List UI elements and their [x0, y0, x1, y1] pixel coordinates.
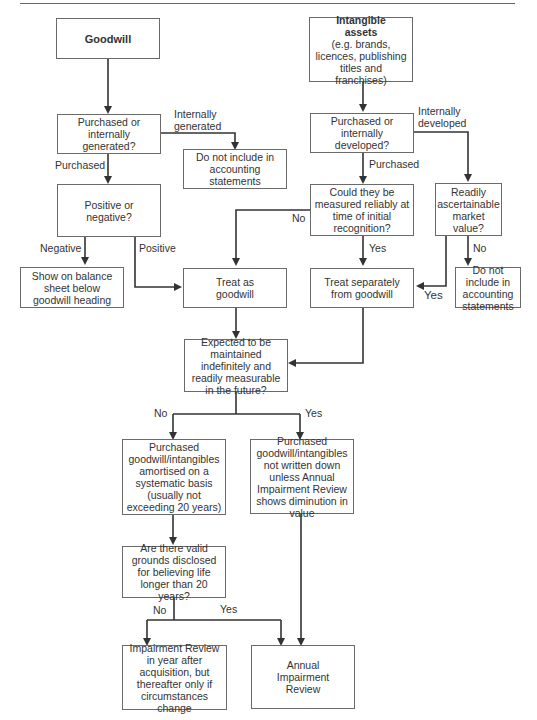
amortised-label: Purchased goodwill/intangibles amortised…: [126, 441, 222, 513]
expected-maintained-box: Expected to be maintained indefinitely a…: [184, 339, 288, 392]
edge-label-no-grounds: No: [153, 604, 166, 616]
measured-reliably-label: Could they be measured reliably at time …: [314, 186, 410, 234]
edge-label-no-market: No: [473, 242, 486, 254]
readily-ascertainable-box: Readily ascertainable market value?: [435, 183, 502, 236]
show-on-balance-sheet-label: Show on balance sheet below goodwill hea…: [24, 270, 120, 306]
intangible-assets-title: Intangible assets: [331, 14, 391, 38]
edge-label-yes-measured: Yes: [369, 242, 386, 254]
goodwill-box: Goodwill: [56, 18, 160, 59]
edge-label-no-measured: No: [292, 212, 305, 224]
treat-as-goodwill-label: Treat as goodwill: [205, 276, 265, 300]
annual-impairment-review-label: Annual Impairment Review: [263, 659, 343, 695]
amortised-box: Purchased goodwill/intangibles amortised…: [122, 439, 226, 515]
do-not-include-label-2: Do not include in accounting statements: [459, 264, 517, 312]
edge-label-internally-developed: Internally developed: [418, 105, 464, 129]
edge-label-negative: Negative: [40, 242, 81, 254]
show-on-balance-sheet-box: Show on balance sheet below goodwill hea…: [20, 267, 124, 308]
edge-label-yes-market: Yes: [424, 289, 443, 301]
valid-grounds-box: Are there valid grounds disclosed for be…: [122, 546, 226, 598]
treat-as-goodwill-box: Treat as goodwill: [183, 268, 287, 308]
edge-label-purchased-2: Purchased: [369, 158, 419, 170]
readily-ascertainable-label: Readily ascertainable market value?: [437, 186, 499, 234]
purchased-or-developed-label: Purchased or internally developed?: [314, 115, 410, 151]
edge-label-text: Internally developed: [418, 105, 466, 129]
purchased-or-generated-box: Purchased or internally generated?: [57, 114, 161, 154]
edge-label-yes-grounds: Yes: [220, 603, 237, 615]
do-not-include-box-2: Do not include in accounting statements: [455, 267, 521, 308]
expected-maintained-label: Expected to be maintained indefinitely a…: [188, 336, 284, 396]
edge-label-no-expected: No: [154, 407, 167, 419]
edge-label-purchased-1: Purchased: [55, 159, 105, 171]
do-not-include-box-1: Do not include in accounting statements: [183, 149, 287, 189]
intangible-assets-box: Intangible assets (e.g. brands, licences…: [309, 17, 413, 82]
do-not-include-label-1: Do not include in accounting statements: [187, 151, 283, 187]
treat-separately-box: Treat separately from goodwill: [310, 268, 414, 308]
intangible-assets-subtitle: (e.g. brands, licences, publishing title…: [313, 38, 409, 86]
treat-separately-label: Treat separately from goodwill: [314, 276, 410, 300]
not-written-down-label: Purchased goodwill/intangibles not writt…: [254, 435, 350, 519]
not-written-down-box: Purchased goodwill/intangibles not writt…: [250, 439, 354, 514]
measured-reliably-box: Could they be measured reliably at time …: [310, 184, 414, 236]
goodwill-label: Goodwill: [85, 33, 131, 45]
positive-or-negative-box: Positive or negative?: [57, 184, 161, 237]
edge-label-text: Internally generated: [174, 108, 221, 132]
annual-impairment-review-box: Annual Impairment Review: [251, 645, 355, 709]
valid-grounds-label: Are there valid grounds disclosed for be…: [126, 542, 222, 602]
edge-label-yes-expected: Yes: [305, 407, 322, 419]
impairment-review-year-after-box: Impairment Review in year after acquisit…: [122, 645, 227, 710]
purchased-or-generated-label: Purchased or internally generated?: [61, 116, 157, 152]
edge-label-positive: Positive: [139, 242, 176, 254]
positive-or-negative-label: Positive or negative?: [61, 199, 157, 223]
edge-label-internally-generated: Internally generated: [174, 108, 214, 132]
purchased-or-developed-box: Purchased or internally developed?: [310, 113, 414, 153]
impairment-review-year-after-label: Impairment Review in year after acquisit…: [126, 642, 223, 714]
